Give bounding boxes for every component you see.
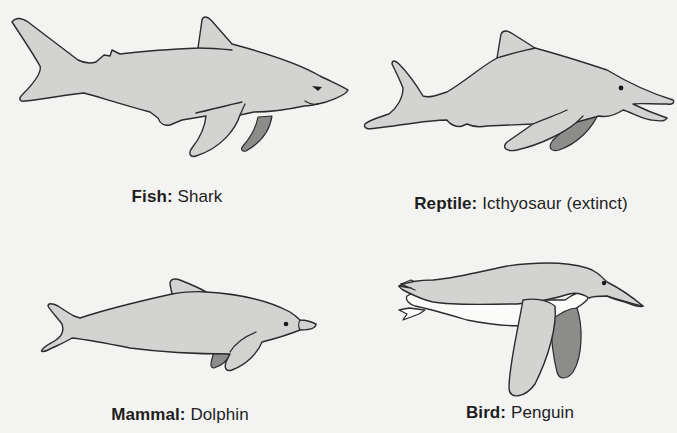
animal-label: Icthyosaur (extinct) [482,194,628,213]
caption-shark: Fish: Shark [132,187,223,207]
animal-label: Dolphin [190,405,248,424]
panel-dolphin: Mammal: Dolphin [0,216,337,433]
panel-shark: Fish: Shark [0,0,337,216]
panel-ichthyosaur: Reptile: Icthyosaur (extinct) [337,0,674,216]
animal-label: Penguin [511,403,574,422]
ichthyosaur-icon [337,0,677,180]
class-label: Bird: [466,403,506,422]
animal-label: Shark [178,187,223,206]
class-label: Reptile: [414,194,477,213]
class-label: Mammal: [111,405,185,424]
caption-dolphin: Mammal: Dolphin [111,405,249,425]
caption-ichthyosaur: Reptile: Icthyosaur (extinct) [414,194,628,214]
penguin-icon [337,216,677,416]
caption-penguin: Bird: Penguin [466,403,574,423]
panel-penguin: Bird: Penguin [337,216,674,433]
class-label: Fish: [132,187,173,206]
shark-icon [0,0,360,180]
dolphin-icon [0,216,340,396]
